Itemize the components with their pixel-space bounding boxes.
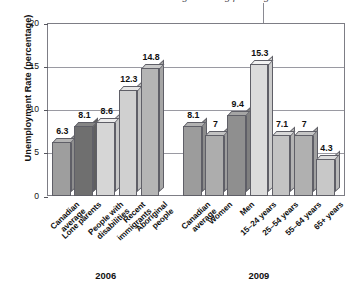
bar-value-label: 6.3 (48, 126, 77, 136)
bar-front-face (294, 135, 313, 196)
chart-container: graduating from high school Unemployment… (0, 0, 359, 293)
bar-value-label: 9.4 (223, 99, 252, 109)
y-axis-tick-label: 20 (9, 18, 39, 28)
group-label-2009: 2009 (229, 270, 289, 281)
bar-front-face (96, 122, 115, 196)
bar (52, 142, 71, 196)
bar-value-label: 4.3 (312, 143, 341, 153)
bar (96, 122, 115, 196)
bar-front-face (52, 142, 71, 196)
bar-side-face (159, 59, 164, 192)
y-axis-tick-label: 15 (9, 61, 39, 71)
bar (227, 115, 246, 196)
bar (141, 68, 160, 196)
y-axis-tick-mark (44, 197, 48, 198)
annotation-text: graduating from high school (128, 0, 359, 2)
gridline (48, 67, 344, 68)
y-axis-tick-label: 0 (9, 191, 39, 201)
bar (294, 135, 313, 196)
y-axis-tick-label: 5 (9, 147, 39, 157)
bar-front-face (227, 115, 246, 196)
bar-front-face (205, 135, 224, 196)
bar-value-label: 8.6 (92, 106, 121, 116)
bar-front-face (74, 126, 93, 196)
bar (74, 126, 93, 196)
bar (316, 159, 335, 196)
bar-front-face (316, 159, 335, 196)
bar (183, 126, 202, 196)
bar-front-face (119, 90, 138, 196)
bar-front-face (141, 68, 160, 196)
bar (272, 135, 291, 196)
y-axis-tick-mark (44, 67, 48, 68)
bar-value-label: 8.1 (179, 110, 208, 120)
y-axis-tick-mark (44, 153, 48, 154)
bar (119, 90, 138, 196)
bar-value-label: 14.8 (137, 52, 166, 62)
bar-front-face (250, 64, 269, 196)
bar-value-label: 15.3 (246, 48, 275, 58)
y-axis-tick-label: 10 (9, 104, 39, 114)
group-label-2006: 2006 (76, 270, 136, 281)
bar (205, 135, 224, 196)
bar-value-label: 7 (290, 119, 319, 129)
bar-value-label: 7 (201, 119, 230, 129)
bar (250, 64, 269, 196)
bar-front-face (183, 126, 202, 196)
y-axis-tick-mark (44, 24, 48, 25)
bar-value-label: 12.3 (115, 74, 144, 84)
bar-front-face (272, 135, 291, 196)
y-axis-tick-mark (44, 110, 48, 111)
